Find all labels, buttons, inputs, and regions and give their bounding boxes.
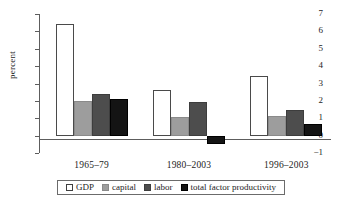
bar-total-factor-productivity [207, 136, 225, 145]
bar-labor [92, 94, 110, 136]
legend-item[interactable]: labor [144, 183, 173, 192]
legend-item[interactable]: capital [102, 183, 136, 192]
bar-capital [268, 116, 286, 136]
bar-total-factor-productivity [110, 99, 128, 135]
y-axis-label: percent [7, 30, 17, 100]
bar-labor [189, 102, 207, 136]
bar-group [153, 14, 225, 153]
y-tick-mark [35, 136, 39, 137]
bar-chart: percent 76543210−1 1965–791980–20031996–… [0, 0, 341, 204]
y-tick-mark [35, 14, 39, 15]
legend-label: total factor productivity [191, 183, 276, 192]
chart-legend: GDPcapitallabortotal factor productivity [57, 180, 285, 195]
bar-gdp [250, 76, 268, 136]
y-tick-mark [35, 84, 39, 85]
y-tick-mark [35, 49, 39, 50]
bar-capital [74, 101, 92, 136]
legend-label: labor [154, 183, 173, 192]
x-category-label: 1965–79 [44, 160, 140, 170]
y-axis-line [39, 14, 40, 153]
legend-item[interactable]: GDP [66, 183, 94, 192]
bar-gdp [153, 90, 171, 135]
legend-swatch-icon [181, 184, 188, 191]
y-tick-mark [35, 118, 39, 119]
legend-swatch-icon [144, 184, 151, 191]
legend-label: GDP [76, 183, 94, 192]
bar-group [56, 14, 128, 153]
x-category-label: 1996–2003 [238, 160, 334, 170]
legend-label: capital [112, 183, 136, 192]
legend-swatch-icon [66, 184, 73, 191]
plot-area: 76543210−1 [39, 14, 331, 153]
legend-swatch-icon [102, 184, 109, 191]
bar-labor [286, 110, 304, 136]
bar-capital [171, 117, 189, 135]
y-tick-mark [35, 153, 39, 154]
x-category-label: 1980–2003 [141, 160, 237, 170]
y-tick-mark [35, 101, 39, 102]
bar-group [250, 14, 322, 153]
legend-item[interactable]: total factor productivity [181, 183, 276, 192]
y-tick-mark [35, 31, 39, 32]
bar-total-factor-productivity [304, 124, 322, 135]
y-tick-mark [35, 66, 39, 67]
bar-gdp [56, 24, 74, 136]
